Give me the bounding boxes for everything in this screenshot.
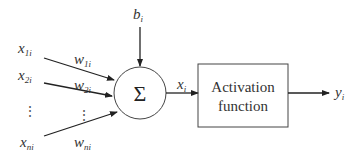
inputs-ellipsis: ⋮ <box>23 104 37 119</box>
input-2: x2i w2i <box>17 67 112 96</box>
output-label: yi <box>333 84 345 102</box>
weight-n-label: wni <box>74 134 92 152</box>
net-input-label: xi <box>176 76 187 94</box>
activation-rect <box>198 64 288 127</box>
activation-line-1: Activation <box>211 79 275 95</box>
net-input: xi <box>166 76 198 94</box>
sigma-icon: Σ <box>134 81 147 106</box>
weight-1-label: w1i <box>74 51 92 69</box>
bias-label: bi <box>133 6 144 24</box>
input-2-label: x2i <box>17 67 32 85</box>
input-1-label: x1i <box>17 40 32 58</box>
input-n-label: xni <box>19 134 34 152</box>
activation-line-2: function <box>218 98 268 114</box>
bias-input: bi <box>133 6 144 66</box>
activation-function-box: Activation function <box>198 64 288 127</box>
weight-2-label: w2i <box>74 77 92 95</box>
summation-node: Σ <box>114 67 166 119</box>
output: yi <box>288 84 345 102</box>
input-1: x1i w1i <box>17 40 114 80</box>
neuron-diagram: bi x1i w1i x2i w2i ⋮ ⋮ xni wni Σ xi Acti… <box>0 0 360 157</box>
